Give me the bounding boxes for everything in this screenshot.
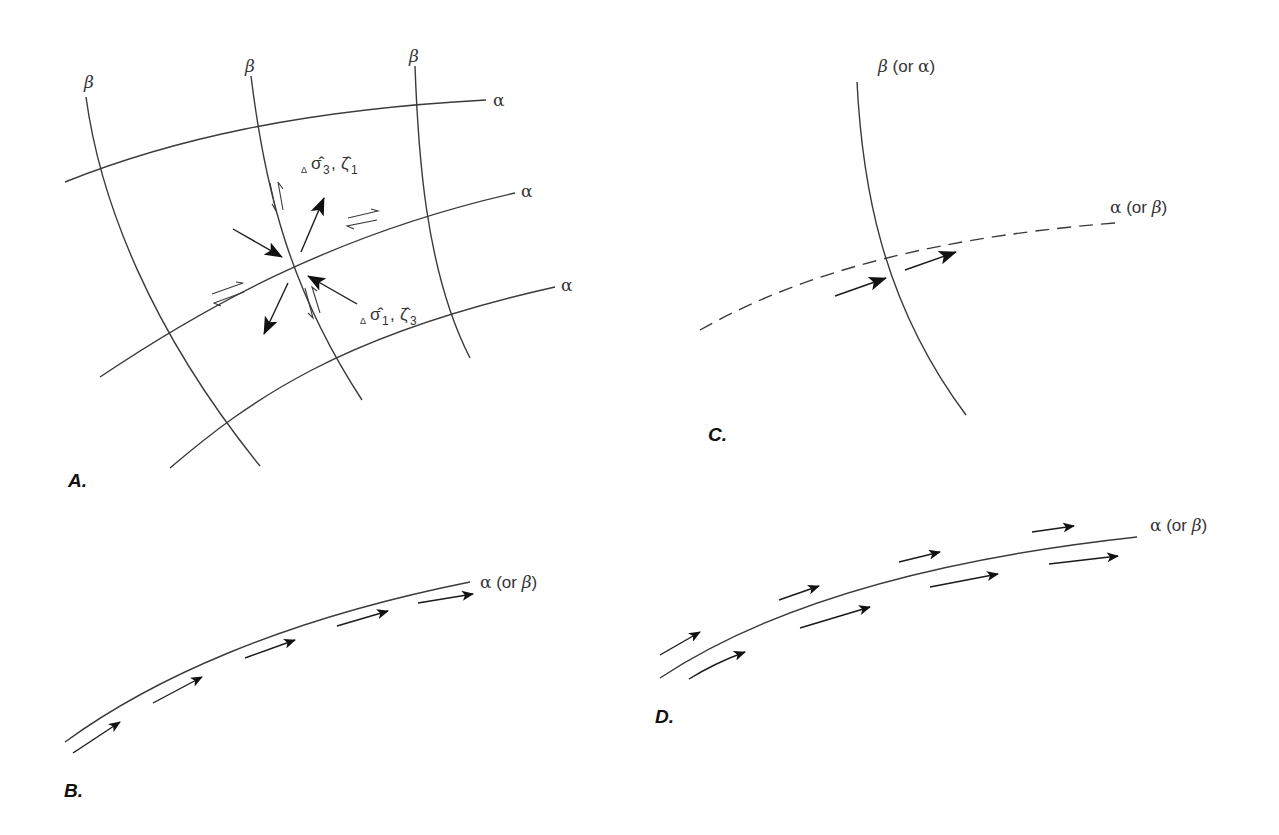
velocity-arrow-d-lower-2 bbox=[800, 607, 870, 628]
svg-text:β (or α): β (or α) bbox=[877, 56, 935, 76]
solid-line-label-c: β (or α) bbox=[877, 56, 935, 76]
velocity-arrow-b-5 bbox=[418, 594, 473, 603]
velocity-arrow-d-lower-3 bbox=[930, 574, 998, 587]
shear-couple-alpha-left bbox=[212, 282, 244, 306]
panel-label-c: C. bbox=[708, 424, 727, 445]
alpha-line-2 bbox=[100, 193, 515, 377]
beta-label-2: β bbox=[244, 56, 255, 76]
velocity-arrow-d-lower-4 bbox=[1049, 556, 1118, 564]
panel-label-b: B. bbox=[64, 780, 83, 801]
beta-label-1: β bbox=[83, 72, 94, 92]
velocity-arrow-d-upper-3 bbox=[899, 552, 940, 562]
tension-arrow-lower-left bbox=[264, 283, 288, 334]
velocity-arrow-b-1 bbox=[73, 722, 120, 753]
slip-line-field-figure: β β β α α α Δ σ̂ 3 bbox=[0, 0, 1279, 835]
svg-text:ζ̂: ζ̂ bbox=[341, 154, 351, 173]
velocity-arrow-d-upper-1 bbox=[660, 632, 700, 655]
velocity-arrow-c-2 bbox=[905, 252, 956, 270]
svg-text:Δ: Δ bbox=[360, 316, 366, 326]
panel-a: β β β α α α Δ σ̂ 3 bbox=[65, 46, 573, 491]
velocity-arrow-d-upper-2 bbox=[779, 586, 819, 600]
velocity-arrow-c-1 bbox=[835, 278, 886, 296]
stress-label-sigma1-zeta3: Δ σ̂ 1 , ζ̂ 3 bbox=[360, 305, 417, 328]
curve-label-d: α (or β) bbox=[1150, 515, 1207, 535]
curve-label-b: α (or β) bbox=[480, 572, 537, 592]
velocity-arrow-d-upper-4 bbox=[1032, 526, 1074, 532]
panel-label-a: A. bbox=[67, 470, 87, 491]
panel-label-d: D. bbox=[655, 706, 674, 727]
solid-slip-line-c bbox=[857, 82, 966, 415]
shear-couple-beta-lower bbox=[305, 287, 320, 318]
velocity-arrow-b-4 bbox=[337, 611, 388, 626]
alpha-label-2: α bbox=[521, 181, 533, 201]
svg-text:3: 3 bbox=[323, 163, 330, 177]
panel-c: β (or α) α (or β) C. bbox=[700, 56, 1167, 445]
tension-arrow-upper-right bbox=[301, 198, 324, 252]
alpha-line-1 bbox=[65, 100, 486, 182]
stress-label-sigma3-zeta1: Δ σ̂ 3 , ζ̂ 1 bbox=[301, 154, 358, 177]
svg-text:,: , bbox=[390, 305, 395, 324]
panel-b: α (or β) B. bbox=[64, 572, 537, 801]
svg-text:ζ̂: ζ̂ bbox=[400, 305, 410, 324]
svg-text:1: 1 bbox=[351, 163, 358, 177]
dashed-line-label-c: α (or β) bbox=[1110, 197, 1167, 217]
panel-d: α (or β) D. bbox=[655, 515, 1207, 727]
beta-label-3: β bbox=[408, 46, 419, 66]
alpha-label-3: α bbox=[561, 275, 573, 295]
svg-text:α (or β): α (or β) bbox=[1150, 515, 1207, 535]
compression-arrow-upper-left bbox=[233, 229, 282, 257]
svg-text:1: 1 bbox=[382, 314, 389, 328]
beta-line-1 bbox=[86, 97, 260, 466]
svg-text:α (or β): α (or β) bbox=[1110, 197, 1167, 217]
shear-couple-alpha-right bbox=[347, 209, 378, 229]
svg-text:3: 3 bbox=[410, 314, 417, 328]
svg-text:Δ: Δ bbox=[301, 165, 307, 175]
svg-text:,: , bbox=[331, 154, 336, 173]
alpha-label-1: α bbox=[493, 90, 505, 110]
slip-line-b bbox=[65, 582, 470, 742]
svg-text:α (or β): α (or β) bbox=[480, 572, 537, 592]
velocity-arrow-b-2 bbox=[153, 677, 202, 703]
alpha-line-3 bbox=[170, 287, 555, 468]
